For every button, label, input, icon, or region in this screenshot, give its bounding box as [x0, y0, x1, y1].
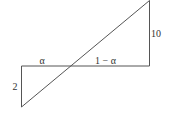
similar-triangles-diagram: 2 10 α 1 − α: [0, 0, 170, 114]
label-left-segment: α: [40, 55, 46, 66]
label-right-side: 10: [151, 28, 161, 39]
label-right-segment: 1 − α: [95, 55, 117, 66]
diagonal-hypotenuse: [22, 1, 150, 108]
label-left-side: 2: [13, 81, 18, 92]
